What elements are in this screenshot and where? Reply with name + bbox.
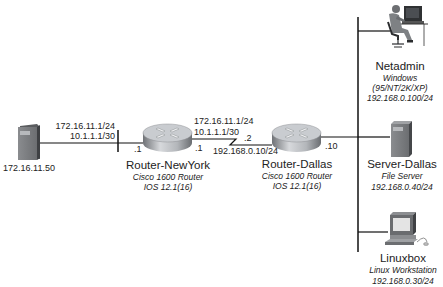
lan-left-label-2: 10.1.1.1/30 — [70, 131, 115, 141]
netadmin-os-versions: (95/NT/2K/XP) — [372, 83, 427, 93]
server-dallas-name: Server-Dallas — [367, 158, 437, 170]
server-tower-icon — [18, 124, 40, 160]
lan-left-label-1: 172.16.11.1/24 — [56, 121, 115, 131]
linuxbox-name: Linuxbox — [380, 252, 426, 264]
netadmin-ip: 192.168.0.100/24 — [367, 93, 433, 103]
admin-workstation-icon — [388, 5, 428, 47]
router-newyork-ios: IOS 12.1(16) — [144, 182, 193, 192]
netadmin-os: Windows — [383, 73, 417, 83]
left-server-ip: 172.16.11.50 — [3, 163, 55, 173]
desktop-computer-icon — [385, 212, 429, 246]
router-dallas-ios: IOS 12.1(16) — [273, 181, 322, 191]
router-icon — [272, 124, 321, 152]
linuxbox-role: Linux Workstation — [369, 265, 437, 275]
network-topology — [0, 0, 443, 287]
link-dallas-lan — [320, 17, 390, 252]
router-newyork-right-if: .1 — [195, 143, 203, 153]
server-tower-icon — [391, 121, 412, 157]
router-newyork-left-if: .1 — [134, 144, 142, 154]
link-serial — [192, 139, 272, 145]
router-dallas-left-if: .2 — [244, 133, 252, 143]
serial-label-1: 172.16.11.1/24 — [194, 116, 253, 126]
server-dallas-ip: 192.168.0.40/24 — [371, 182, 432, 192]
router-dallas-right-if: .10 — [325, 141, 338, 151]
serial-label-2: 10.1.1.1/30 — [194, 127, 239, 137]
router-icon — [143, 124, 192, 152]
netadmin-name: Netadmin — [375, 60, 424, 72]
router-newyork-model: Cisco 1600 Router — [133, 172, 203, 182]
router-dallas-name: Router-Dallas — [262, 158, 332, 170]
router-dallas-model: Cisco 1600 Router — [262, 171, 332, 181]
server-dallas-role: File Server — [381, 171, 422, 181]
linuxbox-ip: 192.168.0.30/24 — [372, 276, 433, 286]
router-newyork-name: Router-NewYork — [126, 159, 210, 171]
serial-label-3: 192.168.0.10/24 — [213, 146, 278, 156]
